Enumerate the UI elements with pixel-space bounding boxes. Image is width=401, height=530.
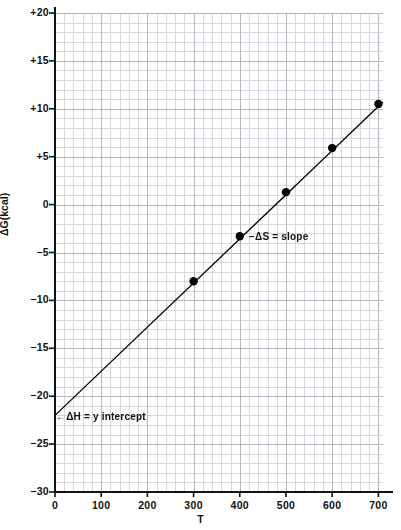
data-points — [189, 100, 382, 286]
data-point — [236, 232, 244, 240]
chart-figure: ΔG(kcal) T +20+15+10+50−5−10−15−20−25−30… — [0, 0, 401, 530]
annotation-slope: −ΔS = slope — [249, 231, 308, 242]
annotation-y-intercept: ←ΔH = y intercept — [56, 411, 146, 422]
data-point — [189, 277, 197, 285]
data-point — [328, 144, 336, 152]
y-axis-title: ΔG(kcal) — [0, 116, 10, 236]
data-point — [282, 188, 290, 196]
plot-graphics — [41, 7, 401, 527]
axis-tick-marks — [49, 13, 378, 497]
data-point — [374, 100, 382, 108]
